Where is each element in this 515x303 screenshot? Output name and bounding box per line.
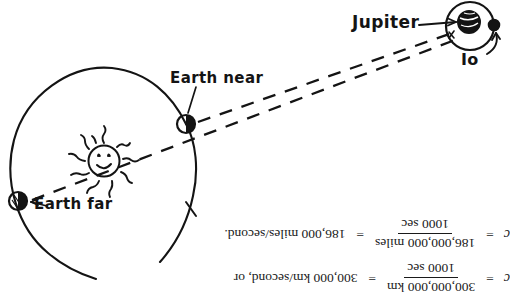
jupiter-leader-arrow bbox=[419, 19, 456, 26]
earth-far-marker bbox=[9, 192, 27, 210]
equations-block: c = 300,000,000 km 1000 sec = 300,000 km… bbox=[166, 212, 510, 300]
sun-smiley-face bbox=[69, 126, 139, 197]
equation-miles-result: 186,000 miles/second. bbox=[224, 226, 351, 242]
equation-miles-numerator: 186,000,000 miles bbox=[372, 235, 478, 251]
dashed-sight-line-earth-far-to-jupiter bbox=[32, 40, 455, 200]
jupiter-body bbox=[458, 11, 480, 33]
diagram-canvas: Earth near Earth far Jupiter Io c = 300,… bbox=[0, 0, 515, 303]
equation-miles-denominator: 1000 sec bbox=[398, 217, 452, 234]
equation-miles-equals-2: = bbox=[351, 226, 369, 242]
equation-km-row: c = 300,000,000 km 1000 sec = 300,000 km… bbox=[166, 256, 510, 300]
equation-miles-row: c = 186,000,000 miles 1000 sec = 186,000… bbox=[166, 212, 510, 256]
label-jupiter: Jupiter bbox=[352, 12, 419, 32]
equation-km-denominator: 1000 sec bbox=[404, 261, 458, 278]
label-earth-far: Earth far bbox=[34, 195, 112, 213]
equation-miles-lhs: c bbox=[499, 226, 510, 242]
equation-km-numerator: 300,000,000 km bbox=[384, 279, 478, 295]
equation-miles-fraction: 186,000,000 miles 1000 sec bbox=[369, 217, 481, 250]
equation-km-fraction: 300,000,000 km 1000 sec bbox=[381, 261, 481, 294]
equation-km-equals-1: = bbox=[481, 270, 499, 286]
equation-km-equals-2: = bbox=[363, 270, 381, 286]
io-leader-arrow bbox=[487, 33, 500, 54]
equation-km-result: 300,000 km/second, or bbox=[234, 270, 364, 286]
earth-near-leader-line bbox=[188, 87, 196, 113]
io-body bbox=[489, 20, 500, 31]
label-earth-near: Earth near bbox=[170, 69, 263, 87]
earth-near-marker bbox=[177, 115, 195, 133]
label-io: Io bbox=[461, 50, 479, 69]
equation-miles-equals-1: = bbox=[481, 226, 499, 242]
sight-line-crossing-tick bbox=[449, 31, 454, 38]
equation-km-lhs: c bbox=[499, 270, 510, 286]
